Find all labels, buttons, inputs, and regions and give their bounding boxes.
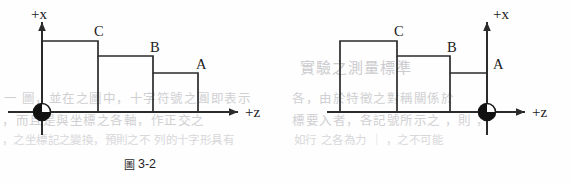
figure-3-3: +x +z C B A 圖 3-3 <box>285 0 571 183</box>
step-profile-outline <box>340 41 487 112</box>
step-label-a: A <box>493 56 504 72</box>
figure-3-2: +x +z C B A 圖 3-2 <box>0 0 285 183</box>
axis-label-z: +z <box>245 104 260 120</box>
step-profile-outline <box>42 41 198 112</box>
step-label-c: C <box>94 23 104 39</box>
page-canvas: 一 圖，並在之圖中，十字符號之圓即表示 ，而且是與坐標之各軸，作正交之 ，之坐標… <box>0 0 571 183</box>
axis-label-z: +z <box>532 104 547 120</box>
figure-3-2-caption: 圖 3-2 <box>124 156 156 172</box>
axis-label-x: +x <box>493 6 509 22</box>
step-label-a: A <box>196 56 207 72</box>
step-label-b: B <box>150 39 160 55</box>
step-label-c: C <box>394 23 404 39</box>
caption-cjk-label: 圖 <box>124 156 135 172</box>
figure-3-3-drawing: +x +z C B A <box>285 0 571 183</box>
origin-marker-icon <box>479 104 496 121</box>
caption-number: 3-2 <box>138 157 156 171</box>
origin-marker-icon <box>34 104 51 121</box>
axis-label-x: +x <box>31 6 47 22</box>
step-label-b: B <box>447 39 457 55</box>
